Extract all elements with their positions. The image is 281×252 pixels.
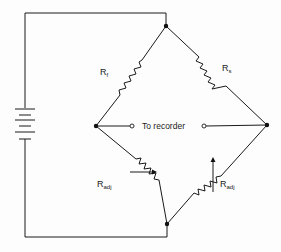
resistor-rs: [166, 26, 267, 125]
node-right: [265, 123, 269, 127]
bottom-supply-wire: [25, 142, 167, 237]
recorder-terminal-left: [130, 124, 134, 128]
arrow-icon: [211, 157, 216, 162]
recorder-terminal-right: [202, 124, 206, 128]
label-radj-right: Radj: [220, 179, 235, 190]
label-to-recorder: To recorder: [142, 121, 185, 131]
resistor-radj-left: [96, 126, 167, 224]
wheatstone-bridge-diagram: Rf Rs Radj Radj To recorder: [0, 0, 281, 252]
resistor-radj-right: [167, 125, 267, 224]
label-radj-left: Radj: [97, 179, 112, 190]
top-supply-wire: [25, 13, 166, 108]
label-rs: Rs: [222, 63, 232, 74]
node-left: [94, 124, 98, 128]
node-bottom: [165, 222, 169, 226]
label-rf: Rf: [100, 67, 109, 78]
node-top: [164, 24, 168, 28]
battery-icon: [15, 109, 35, 142]
